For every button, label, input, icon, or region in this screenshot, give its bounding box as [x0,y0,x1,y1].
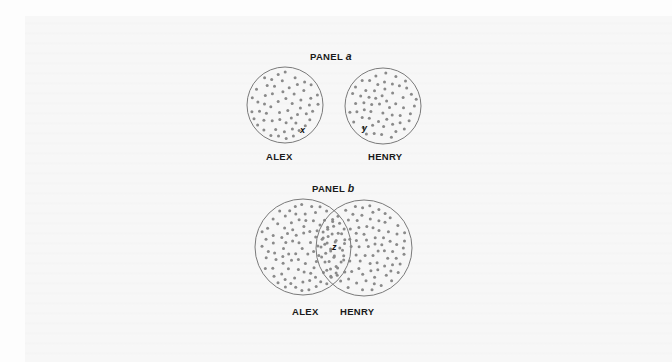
marker-y: y [361,123,368,133]
member-dot [319,205,322,208]
member-dot [326,242,329,245]
member-dot [304,262,307,265]
member-dot [336,266,339,269]
member-dot [390,136,393,139]
member-dot [265,112,268,115]
member-dot [376,261,379,264]
panel-a-henry-label: HENRY [368,151,403,162]
member-dot [355,239,358,242]
panel-b-title: PANEL b [312,182,355,194]
member-dot [382,125,385,128]
member-dot [302,89,305,92]
member-dot [309,97,312,100]
member-dot [371,124,374,127]
member-dot [368,204,371,207]
member-dot [293,93,296,96]
panel-a-alex-label: ALEX [266,151,293,162]
member-dot [294,76,297,79]
member-dot [294,286,297,289]
member-dot [360,214,363,217]
member-dot [403,239,406,242]
member-dot [342,254,345,257]
member-dot [397,271,400,274]
member-dot [283,227,286,230]
member-dot [391,83,394,86]
member-dot [403,231,406,234]
member-dot [367,245,370,248]
member-dot [369,269,372,272]
member-dot [380,133,383,136]
member-dot [376,83,379,86]
member-dot [266,227,269,230]
member-dot [303,271,306,274]
panel-b-alex-label: ALEX [292,306,319,317]
member-dot [395,257,398,260]
member-dot [357,226,360,229]
member-dot [337,232,340,235]
member-dot [275,258,278,261]
member-dot [391,250,394,253]
member-dot [332,256,335,259]
member-dot [281,255,284,258]
member-dot [325,210,328,213]
member-dot [342,259,345,262]
member-dot [355,110,358,113]
member-dot [383,249,386,252]
member-dot [294,205,297,208]
member-dot [299,99,302,102]
member-dot [320,256,323,259]
member-dot [403,253,406,256]
member-dot [378,102,381,105]
member-dot [388,106,391,109]
member-dot [302,231,305,234]
member-dot [308,230,311,233]
member-dot [410,93,413,96]
member-dot [362,101,365,104]
member-dot [380,284,383,287]
member-dot [374,236,377,239]
member-dot [354,205,357,208]
member-dot [377,219,380,222]
member-dot [315,285,318,288]
member-dot [355,254,358,257]
member-dot [303,80,306,83]
member-dot [361,206,364,209]
member-dot [287,267,290,270]
member-dot [358,245,361,248]
member-dot [251,96,254,99]
member-dot [319,280,322,283]
member-dot [296,113,299,116]
member-dot [310,83,313,86]
member-dot [269,105,272,108]
member-dot [391,263,394,266]
member-dot [381,94,384,97]
member-dot [343,228,346,231]
member-dot [373,282,376,285]
member-dot [376,268,379,271]
member-dot [328,260,331,263]
member-dot [291,102,294,105]
member-dot [349,227,352,230]
member-dot [285,121,288,124]
member-dot [391,92,394,95]
member-dot [271,119,274,122]
marker-x: x [299,125,306,135]
member-dot [338,247,341,250]
member-dot [262,119,265,122]
member-dot [343,242,346,245]
member-dot [389,240,392,243]
member-dot [325,269,328,272]
member-dot [373,132,376,135]
member-dot [394,130,397,133]
member-dot [273,252,276,255]
member-dot [282,262,285,265]
member-dot [280,236,283,239]
member-dot [264,267,267,270]
member-dot [381,111,384,114]
member-dot [344,209,347,212]
member-dot [267,250,270,253]
member-dot [350,245,353,248]
member-dot [287,253,290,256]
member-dot [311,110,314,113]
member-dot [291,228,294,231]
